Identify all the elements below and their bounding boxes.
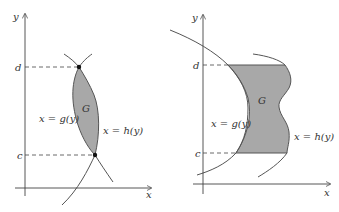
left-lower-intersection-point <box>93 153 97 157</box>
right-y-axis-label: y <box>191 12 198 23</box>
left-curve-g-lower <box>62 155 95 205</box>
left-region-label: G <box>82 103 90 114</box>
left-curve-h <box>79 54 92 67</box>
left-tick-d: d <box>15 62 21 73</box>
right-tick-c: c <box>195 148 201 159</box>
diagram-canvas: y x d c G x = g(y) x = h(y) y x d c G x … <box>0 0 339 212</box>
right-curve-h-upper <box>253 54 285 65</box>
right-curve-g <box>170 30 248 175</box>
right-region-g <box>228 65 291 153</box>
left-curve-g <box>64 54 79 67</box>
right-tick-d: d <box>193 60 199 71</box>
right-x-axis-label: x <box>324 187 330 198</box>
right-h-curve-label: x = h(y) <box>294 131 334 142</box>
right-g-curve-label: x = g(y) <box>211 118 251 129</box>
left-g-curve-label: x = g(y) <box>39 113 79 124</box>
left-figure: y x d c G x = g(y) x = h(y) <box>12 11 152 205</box>
left-upper-intersection-point <box>77 65 81 69</box>
left-y-axis-label: y <box>12 11 19 22</box>
left-curve-h-lower <box>95 155 113 182</box>
right-figure: y x d c G x = g(y) x = h(y) <box>170 12 334 198</box>
left-tick-c: c <box>17 150 23 161</box>
right-region-label: G <box>258 95 266 106</box>
left-h-curve-label: x = h(y) <box>103 125 143 136</box>
right-curve-h-lower <box>258 153 287 177</box>
left-x-axis-label: x <box>146 189 152 200</box>
